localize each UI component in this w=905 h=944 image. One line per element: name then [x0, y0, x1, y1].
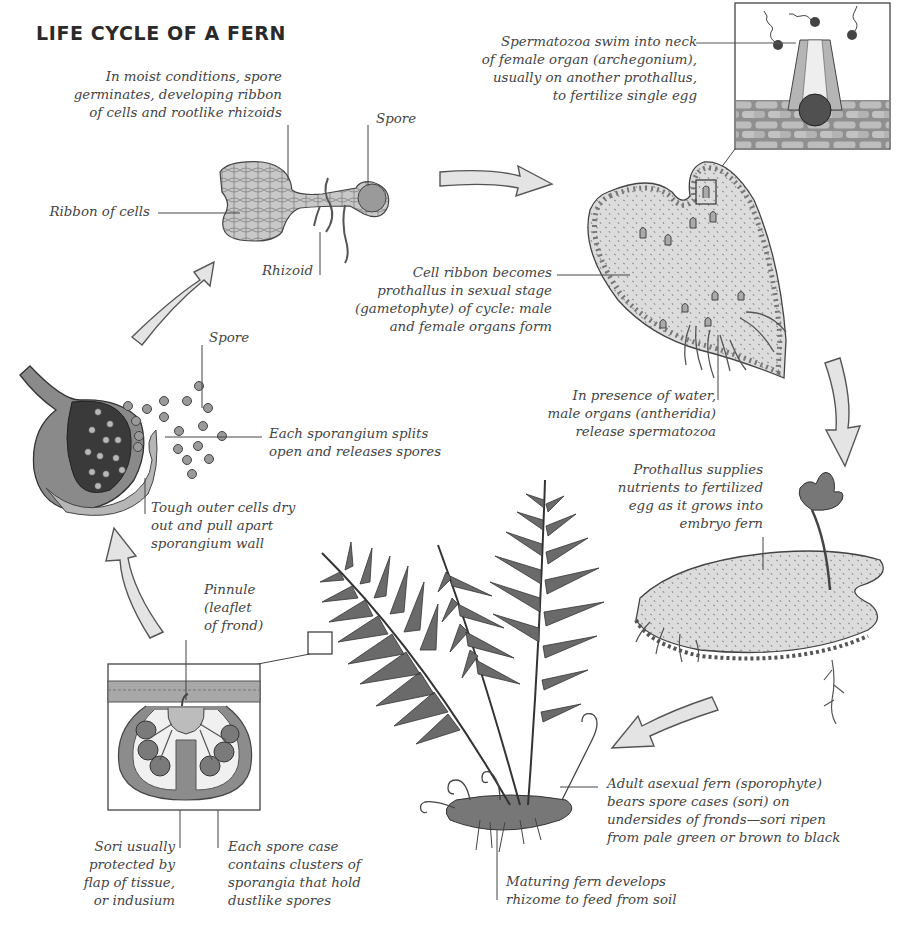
cycle-arrow-down	[825, 358, 860, 466]
label-line: out and pull apart	[151, 517, 295, 535]
label-line: from pale green or brown to black	[607, 829, 840, 847]
label-line: Tough outer cells dry	[151, 499, 295, 517]
label-prothallus-supplies: Prothallus supplies nutrients to fertili…	[618, 461, 763, 533]
label-spore-mid: Spore	[209, 329, 249, 347]
label-cell-ribbon-prothallus: Cell ribbon becomes prothallus in sexual…	[355, 264, 552, 336]
label-line: of frond)	[204, 617, 263, 635]
label-line: flap of tissue,	[84, 874, 175, 892]
cycle-arrow-right	[440, 166, 552, 196]
label-line: nutrients to fertilized	[618, 479, 763, 497]
label-line: and female organs form	[355, 318, 552, 336]
label-line: Cell ribbon becomes	[355, 264, 552, 282]
label-line: In moist conditions, spore	[74, 68, 282, 86]
label-line: In presence of water,	[548, 387, 716, 405]
label-pinnule: Pinnule (leaflet of frond)	[204, 581, 263, 635]
label-spermatozoa-swim: Spermatozoa swim into neck of female org…	[482, 33, 697, 105]
label-line: contains clusters of	[228, 856, 361, 874]
label-line: sporangium wall	[151, 535, 295, 553]
cycle-arrow-down-left	[612, 697, 718, 748]
label-line: embryo fern	[618, 515, 763, 533]
label-sori-protected: Sori usually protected by flap of tissue…	[84, 838, 175, 910]
label-line: release spermatozoa	[548, 423, 716, 441]
label-line: Pinnule	[204, 581, 263, 599]
label-line: of cells and rootlike rhizoids	[74, 104, 282, 122]
label-line: dustlike spores	[228, 892, 361, 910]
label-line: male organs (antheridia)	[548, 405, 716, 423]
cycle-arrow-up-right	[132, 262, 214, 345]
sorus-inset	[108, 640, 260, 848]
label-line: undersides of fronds—sori ripen	[607, 811, 840, 829]
label-line: of female organ (archegonium),	[482, 51, 697, 69]
label-line: Spermatozoa swim into neck	[482, 33, 697, 51]
label-antheridia: In presence of water, male organs (anthe…	[548, 387, 716, 441]
label-line: Maturing fern develops	[506, 873, 677, 891]
label-line: egg as it grows into	[618, 497, 763, 515]
label-line: germinates, developing ribbon	[74, 86, 282, 104]
label-sporangium-splits: Each sporangium splits open and releases…	[269, 425, 441, 461]
label-line: open and releases spores	[269, 443, 441, 461]
sporangium	[20, 345, 262, 515]
label-line: usually on another prothallus,	[482, 69, 697, 87]
prothallus	[588, 162, 786, 400]
germinating-spore	[220, 162, 389, 263]
label-spore-top: Spore	[376, 110, 416, 128]
label-line: Sori usually	[84, 838, 175, 856]
label-line: (gametophyte) of cycle: male	[355, 300, 552, 318]
label-ribbon-of-cells: Ribbon of cells	[49, 203, 150, 221]
label-line: or indusium	[84, 892, 175, 910]
label-germination: In moist conditions, spore germinates, d…	[74, 68, 282, 122]
label-line: to fertilize single egg	[482, 87, 697, 105]
label-line: prothallus in sexual stage	[355, 282, 552, 300]
label-line: bears spore cases (sori) on	[607, 793, 840, 811]
label-line: Adult asexual fern (sporophyte)	[607, 775, 840, 793]
label-rhizoid: Rhizoid	[262, 262, 313, 280]
label-line: Each sporangium splits	[269, 425, 441, 443]
label-spore-case: Each spore case contains clusters of spo…	[228, 838, 361, 910]
archegonium-inset	[696, 3, 890, 180]
label-line: (leaflet	[204, 599, 263, 617]
label-maturing-fern: Maturing fern develops rhizome to feed f…	[506, 873, 677, 909]
label-line: Each spore case	[228, 838, 361, 856]
adult-fern	[258, 480, 604, 900]
label-tough-outer-cells: Tough outer cells dry out and pull apart…	[151, 499, 295, 553]
label-line: sporangia that hold	[228, 874, 361, 892]
label-line: Prothallus supplies	[618, 461, 763, 479]
label-line: rhizome to feed from soil	[506, 891, 677, 909]
label-adult-fern: Adult asexual fern (sporophyte) bears sp…	[607, 775, 840, 847]
label-line: protected by	[84, 856, 175, 874]
